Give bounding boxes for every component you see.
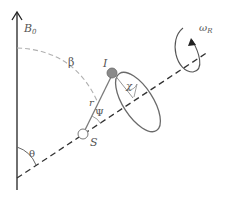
omega-arrow-icon	[188, 38, 196, 46]
beta-arc	[17, 48, 98, 103]
node-S-label: S	[90, 136, 98, 149]
node-I	[107, 68, 117, 78]
node-I-label: I	[102, 57, 108, 70]
omega-label: ωR	[199, 22, 213, 35]
diagram-canvas: B0 β θ ωR r χ Ψ I S	[0, 0, 233, 197]
psi-label: Ψ	[95, 107, 104, 118]
b0-label: B0	[23, 22, 37, 36]
theta-label: θ	[29, 148, 35, 159]
beta-label: β	[68, 56, 74, 69]
node-S	[78, 129, 88, 139]
chi-label: χ	[125, 80, 133, 91]
